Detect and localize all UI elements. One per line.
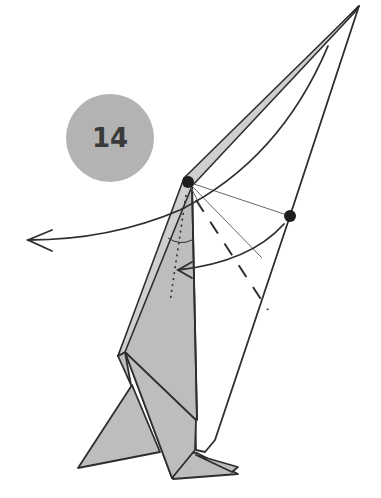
pivot-point-marker	[182, 176, 194, 188]
origami-diagram: 14	[0, 0, 381, 498]
step-number: 14	[92, 123, 128, 153]
step-number-badge: 14	[66, 94, 154, 182]
white-flap	[188, 6, 359, 452]
diagram-canvas	[0, 0, 381, 498]
reference-point-marker	[284, 210, 296, 222]
